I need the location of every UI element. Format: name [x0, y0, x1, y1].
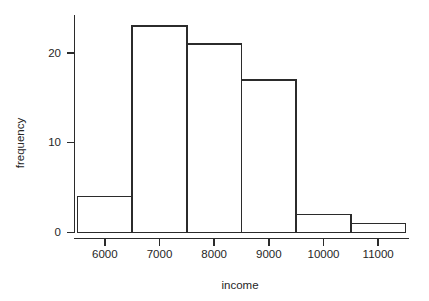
y-tick-label: 0	[55, 226, 61, 238]
histogram-bar	[132, 26, 187, 232]
y-tick-label: 10	[48, 136, 61, 148]
x-tick-label: 6000	[92, 248, 118, 260]
histogram-chart: 01020 60007000800090001000011000 income …	[0, 0, 429, 301]
histogram-bar	[296, 215, 351, 233]
histogram-bar	[242, 80, 297, 233]
x-tick-label: 11000	[363, 248, 394, 260]
chart-canvas: 01020 60007000800090001000011000 income …	[0, 0, 429, 301]
histogram-bar	[351, 224, 406, 233]
y-tick-group: 01020	[48, 47, 74, 239]
x-tick-label: 9000	[256, 248, 282, 260]
x-tick-label: 7000	[147, 248, 173, 260]
x-tick-group: 60007000800090001000011000	[92, 239, 394, 261]
histogram-bar	[78, 197, 133, 233]
x-tick-label: 10000	[308, 248, 340, 260]
y-tick-label: 20	[48, 47, 61, 59]
y-axis-title: frequency	[14, 118, 26, 169]
x-axis-title: income	[221, 279, 258, 291]
histogram-bar	[187, 44, 242, 232]
bars-group	[78, 26, 406, 232]
x-tick-label: 8000	[201, 248, 227, 260]
